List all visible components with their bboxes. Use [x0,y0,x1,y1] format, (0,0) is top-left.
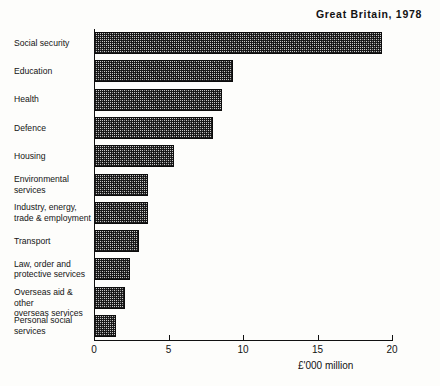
bar [94,60,233,82]
bar [94,117,213,139]
y-axis-line [94,29,95,341]
category-axis-labels: Social securityEducationHealthDefenceHou… [0,29,86,340]
bar [94,174,148,196]
x-axis-title: £'000 million [298,360,353,371]
category-label: Social security [14,38,92,49]
bar [94,258,130,280]
chart-title: Great Britain, 1978 [316,8,422,20]
x-axis-tick [318,335,319,340]
x-axis-tick-label: 0 [91,344,97,355]
bar [94,89,222,111]
x-axis-tick [392,335,393,340]
category-label: Housing [14,151,92,162]
category-label: Education [14,66,92,77]
category-label: Health [14,94,92,105]
plot-area [94,29,392,340]
x-axis-tick-label: 5 [166,344,172,355]
bar [94,32,382,54]
category-label: Overseas aid & other overseas services [14,287,92,319]
x-axis-tick [94,335,95,340]
x-axis-tick [169,335,170,340]
x-axis-tick [243,335,244,340]
chart-figure: Great Britain, 1978 Social securityEduca… [0,0,440,386]
category-label: Transport [14,236,92,247]
bar [94,202,148,224]
bar [94,145,174,167]
bar [94,315,116,337]
x-axis-tick-label: 20 [386,344,397,355]
category-label: Industry, energy, trade & employment [14,202,92,223]
x-axis-tick-label: 10 [237,344,248,355]
category-label: Personal social services [14,315,92,336]
category-label: Environmental services [14,174,92,195]
bar [94,230,139,252]
x-axis-line: 05101520 [94,340,393,341]
x-axis-tick-label: 15 [312,344,323,355]
bar [94,287,125,309]
category-label: Defence [14,123,92,134]
category-label: Law, order and protective services [14,259,92,280]
